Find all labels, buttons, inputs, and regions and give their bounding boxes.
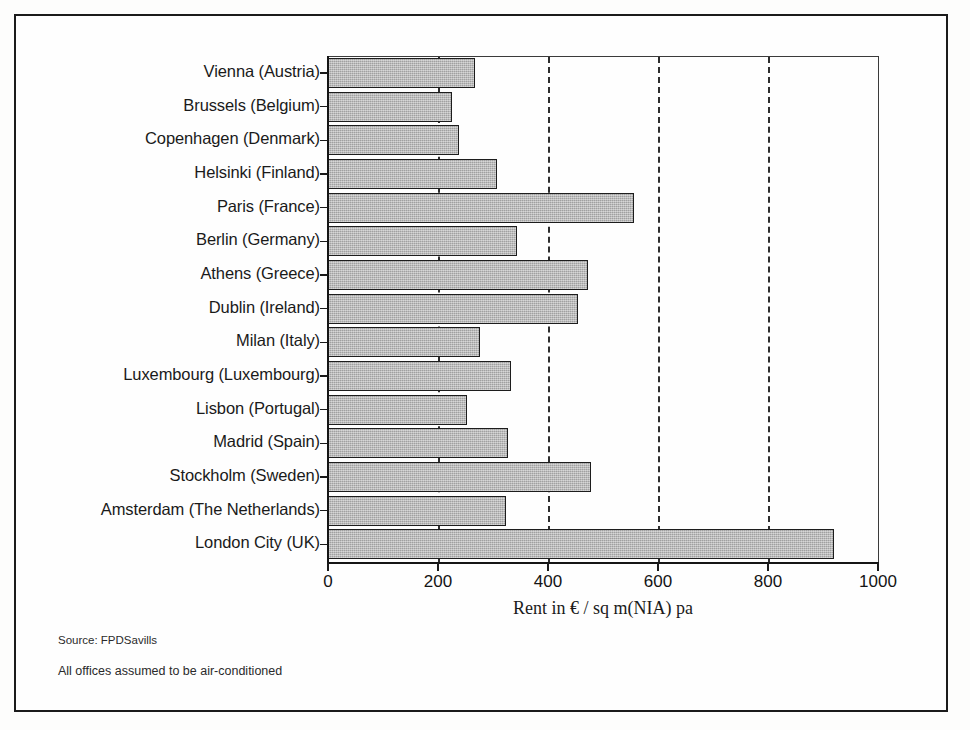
category-label: Athens (Greece): [0, 264, 320, 283]
category-tick: [320, 409, 328, 411]
y-axis-line: [327, 56, 329, 564]
category-tick: [320, 510, 328, 512]
category-label: Berlin (Germany): [0, 230, 320, 249]
category-label: London City (UK): [0, 533, 320, 552]
category-label: Madrid (Spain): [0, 432, 320, 451]
bar: [328, 462, 591, 492]
x-tick-mark-0: [327, 563, 329, 571]
bar: [328, 159, 497, 189]
bar: [328, 294, 578, 324]
bar: [328, 428, 508, 458]
category-label: Brussels (Belgium): [0, 96, 320, 115]
x-tick-label-0: 0: [293, 572, 363, 592]
assumption-note: All offices assumed to be air-conditione…: [58, 664, 282, 678]
x-tick-mark-400: [547, 563, 549, 571]
category-tick: [320, 274, 328, 276]
x-tick-mark-800: [767, 563, 769, 571]
category-tick: [320, 207, 328, 209]
category-tick: [320, 241, 328, 243]
x-tick-mark-1000: [877, 563, 879, 571]
category-tick: [320, 443, 328, 445]
category-label: Milan (Italy): [0, 331, 320, 350]
category-label: Copenhagen (Denmark): [0, 129, 320, 148]
plot-right-border: [878, 56, 879, 563]
bar: [328, 260, 588, 290]
bar: [328, 496, 506, 526]
category-label: Lisbon (Portugal): [0, 399, 320, 418]
x-tick-label-600: 600: [623, 572, 693, 592]
category-label: Stockholm (Sweden): [0, 466, 320, 485]
category-label: Amsterdam (The Netherlands): [0, 500, 320, 519]
chart-figure: Vienna (Austria)Brussels (Belgium)Copenh…: [0, 0, 970, 730]
plot-area: [328, 57, 878, 562]
category-tick: [320, 173, 328, 175]
category-label: Vienna (Austria): [0, 62, 320, 81]
source-note: Source: FPDSavills: [58, 634, 157, 646]
category-label: Paris (France): [0, 197, 320, 216]
category-tick: [320, 106, 328, 108]
bar: [328, 226, 517, 256]
category-tick: [320, 72, 328, 74]
category-label: Dublin (Ireland): [0, 298, 320, 317]
category-label: Luxembourg (Luxembourg): [0, 365, 320, 384]
bar: [328, 58, 475, 88]
category-tick: [320, 375, 328, 377]
category-tick: [320, 544, 328, 546]
category-tick: [320, 140, 328, 142]
bar: [328, 327, 480, 357]
bar: [328, 92, 452, 122]
bar: [328, 361, 511, 391]
gridline-600: [658, 57, 660, 562]
x-tick-label-200: 200: [403, 572, 473, 592]
bar: [328, 529, 834, 559]
x-tick-mark-200: [437, 563, 439, 571]
category-tick: [320, 476, 328, 478]
x-axis-line: [327, 562, 879, 564]
category-label: Helsinki (Finland): [0, 163, 320, 182]
category-tick: [320, 308, 328, 310]
x-tick-label-400: 400: [513, 572, 583, 592]
x-tick-mark-600: [657, 563, 659, 571]
x-axis-title: Rent in € / sq m(NIA) pa: [328, 598, 878, 619]
x-tick-label-800: 800: [733, 572, 803, 592]
category-tick: [320, 342, 328, 344]
bar: [328, 125, 459, 155]
bar: [328, 193, 634, 223]
bar: [328, 395, 467, 425]
gridline-800: [768, 57, 770, 562]
x-tick-label-1000: 1000: [843, 572, 913, 592]
